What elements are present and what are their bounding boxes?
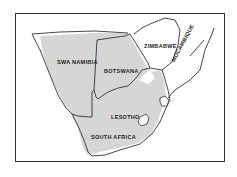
swaziland-outline [160, 96, 169, 106]
label-lesotho: LESOTHO [111, 114, 140, 120]
label-botswana: BOTSWANA [104, 68, 138, 74]
southern-africa-map [0, 0, 237, 177]
label-south-africa: SOUTH AFRICA [91, 134, 136, 140]
label-swa-namibia: SWA NAMIBIA [57, 59, 98, 65]
label-zimbabwe: ZIMBABWE [144, 43, 177, 49]
